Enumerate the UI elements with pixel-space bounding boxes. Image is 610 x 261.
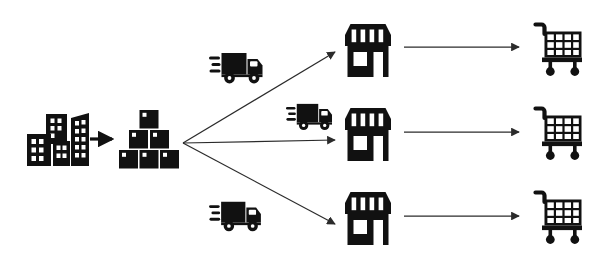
delivery-truck-icon-top [209,53,263,83]
delivery-truck-icon-bottom [209,202,261,231]
nodes-layer [27,24,582,245]
shopping-cart-icon-top [536,25,583,76]
storefront-icon-middle [345,108,391,161]
stacked-boxes-icon [119,110,179,169]
city-buildings-icon [27,113,89,166]
shopping-cart-icon-middle [536,109,583,160]
shopping-cart-icon-bottom [536,193,583,244]
arrow-hub-to-store-middle [183,140,335,143]
supply-chain-diagram [0,0,610,261]
storefront-icon-top [345,24,391,77]
diagram-canvas [0,0,610,261]
delivery-truck-icon-middle [286,104,332,130]
storefront-icon-bottom [345,192,391,245]
